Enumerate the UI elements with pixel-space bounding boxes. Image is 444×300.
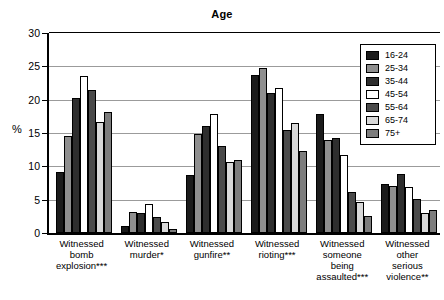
bar[interactable] xyxy=(283,130,291,233)
legend-item[interactable]: 55-64 xyxy=(366,101,432,114)
bar-group xyxy=(186,33,242,233)
legend-item[interactable]: 35-44 xyxy=(366,75,432,88)
bar-group xyxy=(121,33,177,233)
bar[interactable] xyxy=(299,151,307,233)
bar[interactable] xyxy=(72,98,80,233)
y-axis-tick-label: 20 xyxy=(14,95,40,105)
bar[interactable] xyxy=(259,68,267,233)
bar[interactable] xyxy=(64,136,72,233)
bar[interactable] xyxy=(218,146,226,233)
bar[interactable] xyxy=(275,88,283,233)
x-axis-category-label-line: Witnessed xyxy=(362,238,444,249)
x-axis-category-label-line: serious xyxy=(362,260,444,271)
bar[interactable] xyxy=(96,122,104,233)
bar[interactable] xyxy=(129,212,137,233)
x-axis-category-label: Witnessedotherseriousviolence** xyxy=(362,238,444,282)
bar[interactable] xyxy=(169,229,177,233)
legend-label: 65-74 xyxy=(385,116,408,125)
y-axis-tick-label: 5 xyxy=(14,195,40,205)
y-axis-tick-label: 10 xyxy=(14,161,40,171)
legend-label: 55-64 xyxy=(385,103,408,112)
y-axis-tick-label: 25 xyxy=(14,61,40,71)
bar[interactable] xyxy=(332,138,340,233)
bar[interactable] xyxy=(234,160,242,233)
bar[interactable] xyxy=(153,217,161,233)
bar[interactable] xyxy=(202,126,210,233)
bar[interactable] xyxy=(340,155,348,233)
chart-title: Age xyxy=(0,8,444,20)
legend-item[interactable]: 65-74 xyxy=(366,114,432,127)
bar[interactable] xyxy=(405,187,413,233)
bar[interactable] xyxy=(397,174,405,233)
x-axis-category-label-line: explosion*** xyxy=(37,260,127,271)
bar[interactable] xyxy=(429,210,437,233)
legend-item[interactable]: 25-34 xyxy=(366,62,432,75)
legend-label: 75+ xyxy=(385,129,400,138)
y-axis-tick-label: 0 xyxy=(14,228,40,238)
legend-swatch-icon xyxy=(366,64,379,73)
legend-label: 45-54 xyxy=(385,90,408,99)
bar[interactable] xyxy=(364,216,372,233)
bar[interactable] xyxy=(316,114,324,233)
bar[interactable] xyxy=(194,134,202,233)
chart-legend: 16-2425-3435-4445-5455-6465-7475+ xyxy=(360,44,436,145)
legend-swatch-icon xyxy=(366,129,379,138)
bar[interactable] xyxy=(121,226,129,233)
bar[interactable] xyxy=(421,213,429,233)
bar[interactable] xyxy=(137,213,145,233)
legend-label: 16-24 xyxy=(385,51,408,60)
bar[interactable] xyxy=(210,114,218,233)
legend-swatch-icon xyxy=(366,77,379,86)
legend-swatch-icon xyxy=(366,103,379,112)
bar[interactable] xyxy=(161,222,169,233)
chart-container: Age % 051015202530 16-2425-3435-4445-545… xyxy=(0,0,444,300)
bar[interactable] xyxy=(381,184,389,233)
legend-swatch-icon xyxy=(366,51,379,60)
bar[interactable] xyxy=(389,186,397,233)
bar[interactable] xyxy=(348,192,356,233)
legend-label: 35-44 xyxy=(385,77,408,86)
x-axis-category-label-line: violence** xyxy=(362,271,444,282)
y-axis-tick-label: 15 xyxy=(14,128,40,138)
bar[interactable] xyxy=(104,112,112,233)
legend-swatch-icon xyxy=(366,90,379,99)
bar[interactable] xyxy=(267,93,275,233)
bar[interactable] xyxy=(186,175,194,233)
legend-swatch-icon xyxy=(366,116,379,125)
legend-item[interactable]: 75+ xyxy=(366,127,432,140)
bar[interactable] xyxy=(413,199,421,233)
bar[interactable] xyxy=(145,204,153,233)
bar[interactable] xyxy=(291,123,299,233)
bar[interactable] xyxy=(324,140,332,233)
bar-group xyxy=(251,33,307,233)
bar[interactable] xyxy=(56,172,64,233)
bar[interactable] xyxy=(88,90,96,233)
bar[interactable] xyxy=(251,75,259,233)
legend-label: 25-34 xyxy=(385,64,408,73)
legend-item[interactable]: 45-54 xyxy=(366,88,432,101)
bar[interactable] xyxy=(226,162,234,233)
legend-item[interactable]: 16-24 xyxy=(366,49,432,62)
bar[interactable] xyxy=(80,76,88,233)
x-axis-category-label-line: other xyxy=(362,249,444,260)
bar-group xyxy=(56,33,112,233)
y-axis-tick-label: 30 xyxy=(14,28,40,38)
bar[interactable] xyxy=(356,202,364,233)
